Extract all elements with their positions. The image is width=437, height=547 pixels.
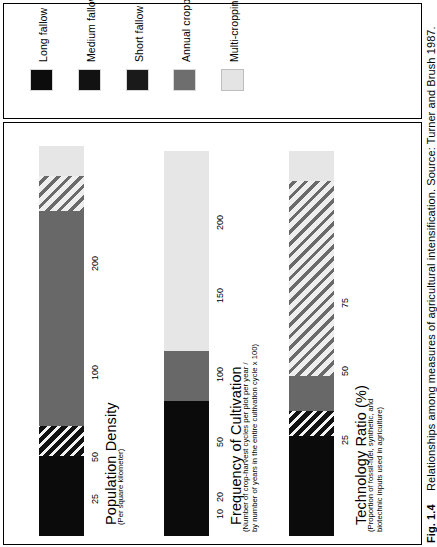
legend-swatch-long-fallow <box>30 69 53 91</box>
legend-label-short-fallow: Short fallow <box>134 6 145 62</box>
legend-label-medium-fallow: Medium fallow <box>86 0 97 62</box>
bar-segment-short-fallow <box>164 351 209 401</box>
axis-subtitle-frequency-line2: by number of years in the entire cultiva… <box>251 344 259 532</box>
bar-frequency-of-cultivation <box>164 151 209 536</box>
bar-segment-short-fallow <box>289 376 334 411</box>
bar-segment-long-fallow <box>164 401 209 536</box>
axis-subtitle-population-density: (Per square kilometer) <box>117 449 125 525</box>
tick-fc-50: 50 <box>215 437 225 447</box>
tick-pd-50: 50 <box>90 452 100 462</box>
bar-segment-multi-cropping <box>39 146 84 176</box>
bar-population-density <box>39 146 84 536</box>
bar-segment-long-fallow <box>289 436 334 536</box>
figure-caption-text: Relationships among measures of agricult… <box>425 26 437 491</box>
legend-label-multi-cropping: Multi-cropping <box>229 0 240 62</box>
bar-segment-multi-cropping <box>164 151 209 351</box>
tick-fc-200: 200 <box>215 215 225 230</box>
bar-segment-medium-fallow <box>289 411 334 436</box>
bar-segment-medium-fallow <box>39 426 84 456</box>
tick-fc-20: 20 <box>215 492 225 502</box>
legend-panel: Long fallow Medium fallow Short fallow A… <box>3 3 422 119</box>
bar-segment-annual-cropping <box>289 181 334 376</box>
legend-label-annual-cropping: Annual cropping <box>181 0 192 62</box>
bar-technology-ratio <box>289 151 334 536</box>
legend-swatch-short-fallow <box>126 69 149 91</box>
legend-swatch-annual-cropping <box>173 69 196 91</box>
tick-pd-100: 100 <box>90 365 100 380</box>
figure-caption-label: Fig. 1.4 <box>425 504 437 543</box>
axis-subtitle-frequency-line1: (Number of crop-harvest cycles per plot … <box>242 362 250 532</box>
tick-tr-50: 50 <box>340 366 350 376</box>
tick-fc-100: 100 <box>215 367 225 382</box>
bar-segment-short-fallow <box>39 211 84 426</box>
figure-caption: Fig. 1.4 Relationships among measures of… <box>426 26 437 543</box>
axis-subtitle-technology-line1: (Proportion of fossil-fuel, synthetic, a… <box>367 399 375 532</box>
legend-swatch-multi-cropping <box>221 69 244 91</box>
tick-fc-10: 10 <box>215 509 225 519</box>
bar-segment-multi-cropping <box>289 151 334 181</box>
bar-segment-annual-cropping <box>39 176 84 211</box>
tick-fc-150: 150 <box>215 288 225 303</box>
tick-tr-75: 75 <box>340 298 350 308</box>
legend-swatch-medium-fallow <box>78 69 101 91</box>
tick-pd-200: 200 <box>90 256 100 271</box>
axis-subtitle-technology-line2: biotechnic inputs used in agriculture) <box>376 407 384 532</box>
plot-panel: 25 50 100 200 Population Density (Per sq… <box>3 122 422 545</box>
bar-segment-long-fallow <box>39 456 84 536</box>
legend-label-long-fallow: Long fallow <box>38 8 49 62</box>
tick-tr-25: 25 <box>340 435 350 445</box>
tick-pd-25: 25 <box>90 494 100 504</box>
